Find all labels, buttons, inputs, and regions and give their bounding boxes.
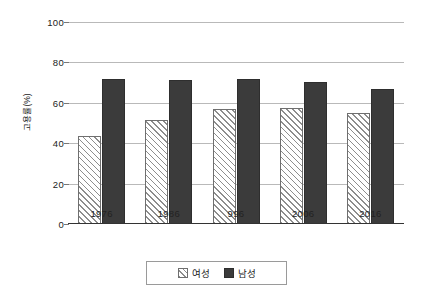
bar-group — [145, 22, 192, 224]
bar-group — [347, 22, 394, 224]
bar-group — [78, 22, 125, 224]
x-axis-tick-label: 2016 — [340, 208, 400, 219]
y-axis-tick-label: 20 — [22, 178, 64, 189]
legend-item-female: 여성 — [178, 266, 210, 280]
x-axis-tick-label: 1986 — [139, 208, 199, 219]
bar-group — [213, 22, 260, 224]
legend-swatch-male-icon — [224, 268, 234, 278]
bar-male — [169, 80, 192, 224]
legend-item-male: 남성 — [224, 266, 256, 280]
x-axis-tick-label: 996 — [206, 208, 266, 219]
bar-chart: 고용률(%) 020406080100 1976198699620062016 … — [0, 0, 428, 297]
x-axis-tick-label: 1976 — [72, 208, 132, 219]
bar-male — [102, 79, 125, 224]
y-axis-tick-label: 60 — [22, 97, 64, 108]
legend: 여성 남성 — [146, 261, 287, 285]
y-axis-tick-label: 0 — [22, 219, 64, 230]
y-axis-tick-label: 80 — [22, 57, 64, 68]
bar-male — [371, 89, 394, 224]
legend-label-male: 남성 — [238, 266, 256, 280]
bars-layer — [68, 22, 404, 224]
y-axis-tick-label: 100 — [22, 17, 64, 28]
bar-male — [237, 79, 260, 224]
x-axis-line — [68, 223, 404, 225]
bar-female — [280, 108, 303, 224]
legend-swatch-female-icon — [178, 268, 188, 278]
bar-female — [213, 109, 236, 224]
legend-label-female: 여성 — [192, 266, 210, 280]
bar-group — [280, 22, 327, 224]
plot-area: 020406080100 — [68, 22, 404, 224]
x-axis-tick-label: 2006 — [273, 208, 333, 219]
y-axis-tick-mark — [64, 224, 69, 225]
bar-male — [304, 82, 327, 224]
y-axis-tick-label: 40 — [22, 138, 64, 149]
